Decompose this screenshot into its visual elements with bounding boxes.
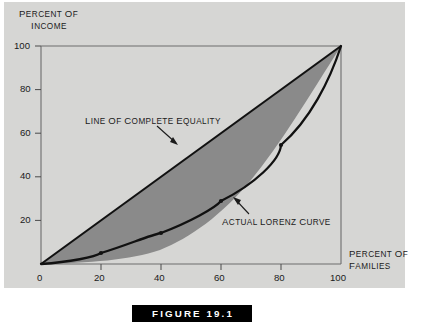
y-axis-title-line1: PERCENT OF [19, 10, 78, 19]
y-axis-title: PERCENT OF INCOME [19, 9, 78, 32]
annotation-lorenz-curve: ACTUAL LORENZ CURVE [222, 216, 331, 227]
y-tick-label-80: 80 [20, 83, 31, 94]
x-axis-title-line1: PERCENT OF [349, 250, 408, 259]
figure-container: PERCENT OF INCOME PERCENT OF FAMILIES 10… [0, 0, 421, 326]
x-axis-title-line2: FAMILIES [349, 261, 408, 273]
x-tick-label-40: 40 [154, 272, 165, 283]
figure-caption-text: FIGURE 19.1 [132, 305, 252, 322]
y-tick-label-60: 60 [20, 127, 31, 138]
x-tick-label-100: 100 [330, 272, 346, 283]
x-tick-label-0: 0 [37, 272, 42, 283]
y-tick-label-40: 40 [20, 170, 31, 181]
x-tick-label-20: 20 [94, 272, 105, 283]
x-tick-label-60: 60 [214, 272, 225, 283]
lorenz-point-40 [159, 231, 163, 235]
annotation-equality-line: LINE OF COMPLETE EQUALITY [85, 115, 221, 126]
lorenz-annotation-arrow [233, 197, 249, 214]
x-axis-title: PERCENT OF FAMILIES [349, 249, 408, 272]
equality-annotation-arrow [157, 126, 178, 145]
lorenz-curve-plot [0, 0, 421, 290]
figure-caption-bar: FIGURE 19.1 [132, 305, 252, 322]
lorenz-point-80 [279, 143, 283, 147]
lorenz-point-60 [219, 199, 223, 203]
x-tick-label-80: 80 [274, 272, 285, 283]
lorenz-point-20 [99, 251, 103, 255]
y-tick-label-20: 20 [20, 214, 31, 225]
y-tick-label-100: 100 [14, 40, 30, 51]
y-axis-title-line2: INCOME [19, 21, 78, 33]
